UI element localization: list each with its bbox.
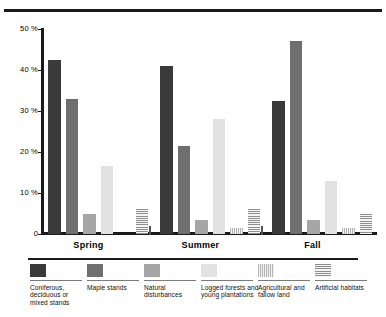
- bar-spring-series-3: [83, 214, 96, 235]
- chart-legend: Coniferous, deciduous or mixed standsMap…: [0, 258, 386, 317]
- legend-underline: [315, 280, 367, 281]
- bar-fall-series-4: [325, 181, 338, 234]
- bar-summer-series-5: [230, 228, 243, 234]
- bar-spring-series-1: [48, 60, 61, 234]
- legend-underline: [30, 280, 82, 281]
- legend-swatch-icon: [258, 264, 274, 277]
- legend-swatch-icon: [30, 264, 46, 277]
- bar-summer-series-1: [160, 66, 173, 234]
- legend-item-1[interactable]: Coniferous, deciduous or mixed stands: [30, 264, 88, 306]
- legend-item-2[interactable]: Maple stands: [87, 264, 145, 291]
- top-divider-rule: [4, 9, 382, 12]
- legend-underline: [201, 280, 253, 281]
- bar-fall-series-5: [342, 228, 355, 234]
- legend-underline: [258, 280, 310, 281]
- bar-summer-series-4: [213, 119, 226, 234]
- bar-fall-series-6: [360, 214, 373, 235]
- legend-label: Logged forests and young plantations: [201, 284, 259, 299]
- legend-label: Coniferous, deciduous or mixed stands: [30, 284, 88, 307]
- bar-fall-series-2: [290, 41, 303, 234]
- bar-spring-series-4: [101, 166, 114, 234]
- x-axis-label-fall: Fall: [260, 240, 365, 250]
- legend-item-5[interactable]: Agricultural and fallow land: [258, 264, 316, 299]
- legend-label: Agricultural and fallow land: [258, 284, 316, 299]
- legend-item-3[interactable]: Natural disturbances: [144, 264, 202, 299]
- legend-swatch-icon: [144, 264, 160, 277]
- bar-fall-series-1: [272, 101, 285, 234]
- legend-underline: [144, 280, 196, 281]
- legend-label: Artificial habitats: [315, 284, 373, 292]
- legend-underline: [87, 280, 139, 281]
- legend-item-6[interactable]: Artificial habitats: [315, 264, 373, 291]
- bar-summer-series-2: [178, 146, 191, 234]
- bar-spring-series-6: [136, 209, 149, 234]
- legend-label: Natural disturbances: [144, 284, 202, 299]
- legend-item-4[interactable]: Logged forests and young plantations: [201, 264, 259, 299]
- bar-summer-series-6: [248, 209, 261, 234]
- bar-fall-series-3: [307, 220, 320, 234]
- bar-group-container: [0, 16, 386, 241]
- chart-plot-area: 50 %40 %30 %20 %10 %0 SpringSummerFall: [0, 16, 386, 241]
- x-axis-label-summer: Summer: [148, 240, 253, 250]
- legend-label: Maple stands: [87, 284, 145, 292]
- x-axis-label-spring: Spring: [36, 240, 141, 250]
- legend-divider-rule: [28, 258, 358, 260]
- legend-swatch-icon: [201, 264, 217, 277]
- legend-swatch-icon: [315, 264, 331, 277]
- bar-summer-series-3: [195, 220, 208, 234]
- bar-spring-series-2: [66, 99, 79, 234]
- legend-swatch-icon: [87, 264, 103, 277]
